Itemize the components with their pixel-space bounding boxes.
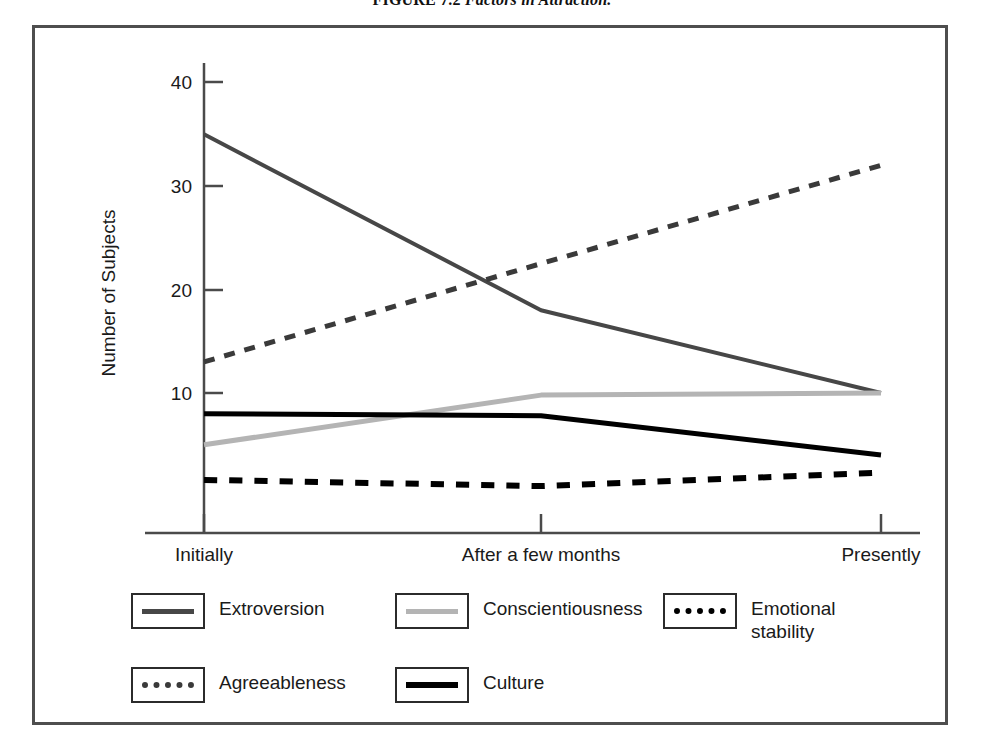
series-line-culture xyxy=(204,414,881,455)
series-line-emotional-stability xyxy=(204,473,881,486)
legend-label-emotional-stability-line2: stability xyxy=(751,621,814,642)
legend-item-culture[interactable]: Culture xyxy=(395,667,663,703)
legend-label-agreeableness: Agreeableness xyxy=(219,667,346,694)
solid-line-icon xyxy=(142,609,194,614)
figure-caption-label: FIGURE 7.2 xyxy=(373,0,461,8)
y-axis-title: Number of Subjects xyxy=(98,210,119,377)
legend-item-extroversion[interactable]: Extroversion xyxy=(131,593,395,629)
legend-label-extroversion: Extroversion xyxy=(219,593,325,620)
y-tick-label-20: 20 xyxy=(171,280,192,301)
series-line-agreeableness xyxy=(204,165,881,362)
legend-item-conscientiousness[interactable]: Conscientiousness xyxy=(395,593,663,629)
legend-item-agreeableness[interactable]: Agreeableness xyxy=(131,667,395,703)
legend-row-2: Agreeableness Culture xyxy=(131,667,931,703)
chart-legend: Extroversion Conscientiousness Emotional… xyxy=(131,593,931,727)
solid-line-icon xyxy=(406,609,458,614)
series-line-conscientiousness xyxy=(204,393,881,445)
legend-swatch-extroversion xyxy=(131,593,205,629)
legend-swatch-conscientiousness xyxy=(395,593,469,629)
legend-label-culture: Culture xyxy=(483,667,544,694)
figure-caption-title: Factors in Attraction. xyxy=(465,0,612,8)
dashed-line-icon xyxy=(674,608,726,614)
series-line-extroversion xyxy=(204,134,881,393)
legend-swatch-emotional-stability xyxy=(663,593,737,629)
legend-swatch-culture xyxy=(395,667,469,703)
x-tick-label-presently: Presently xyxy=(841,544,921,565)
y-tick-label-30: 30 xyxy=(171,176,192,197)
dashed-line-icon xyxy=(142,682,194,688)
y-tick-label-10: 10 xyxy=(171,383,192,404)
legend-label-conscientiousness: Conscientiousness xyxy=(483,593,642,620)
x-tick-label-initially: Initially xyxy=(175,544,234,565)
legend-item-emotional-stability[interactable]: Emotional stability xyxy=(663,593,913,643)
solid-line-icon xyxy=(406,682,458,688)
legend-label-emotional-stability-line1: Emotional xyxy=(751,598,836,619)
legend-label-emotional-stability: Emotional stability xyxy=(751,593,836,643)
figure-panel: 40 30 20 10 Number of Subjects Initially… xyxy=(32,25,948,725)
legend-row-1: Extroversion Conscientiousness Emotional… xyxy=(131,593,931,643)
x-tick-label-after-a-few-months: After a few months xyxy=(462,544,620,565)
y-tick-label-40: 40 xyxy=(171,72,192,93)
legend-swatch-agreeableness xyxy=(131,667,205,703)
figure-caption: FIGURE 7.2 Factors in Attraction. xyxy=(0,0,984,9)
